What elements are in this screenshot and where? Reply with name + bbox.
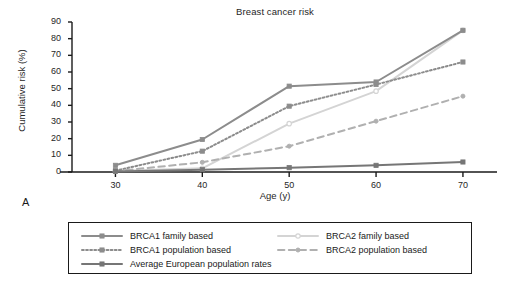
y-tick-40: 40 — [39, 99, 61, 109]
y-tick-50: 50 — [39, 83, 61, 93]
legend-swatch-1 — [81, 244, 123, 256]
legend-swatch-3 — [277, 230, 319, 242]
y-tick-70: 70 — [39, 49, 61, 59]
chart-plot-area: Breast cancer risk Cumulative risk (%) A… — [0, 0, 515, 200]
legend-item-3[interactable]: BRCA2 family based — [277, 229, 409, 243]
x-tick-30: 30 — [100, 180, 130, 190]
legend-swatch-2 — [81, 258, 123, 270]
legend-label-1: BRCA1 population based — [130, 244, 231, 256]
line-chart-svg — [0, 0, 515, 200]
y-tick-0: 0 — [39, 166, 61, 176]
x-tick-60: 60 — [361, 180, 391, 190]
legend-label-0: BRCA1 family based — [130, 230, 213, 242]
figure-panel-a: Breast cancer risk Cumulative risk (%) A… — [0, 0, 515, 288]
y-tick-90: 90 — [39, 16, 61, 26]
panel-label: A — [22, 196, 29, 208]
legend-label-3: BRCA2 family based — [326, 230, 409, 242]
y-tick-60: 60 — [39, 66, 61, 76]
y-tick-80: 80 — [39, 33, 61, 43]
legend-swatch-0 — [81, 230, 123, 242]
legend-item-0[interactable]: BRCA1 family based — [81, 229, 213, 243]
y-tick-30: 30 — [39, 116, 61, 126]
y-tick-20: 20 — [39, 133, 61, 143]
x-tick-50: 50 — [274, 180, 304, 190]
legend-item-4[interactable]: BRCA2 population based — [277, 243, 427, 257]
x-tick-40: 40 — [187, 180, 217, 190]
legend-label-2: Average European population rates — [130, 258, 271, 270]
legend-item-1[interactable]: BRCA1 population based — [81, 243, 231, 257]
series-3 — [113, 28, 465, 173]
legend-label-4: BRCA2 population based — [326, 244, 427, 256]
series-1 — [113, 60, 465, 173]
x-tick-70: 70 — [448, 180, 478, 190]
y-tick-10: 10 — [39, 149, 61, 159]
legend-item-2[interactable]: Average European population rates — [81, 257, 271, 271]
chart-legend: BRCA1 family basedBRCA1 population based… — [68, 222, 472, 274]
legend-swatch-4 — [277, 244, 319, 256]
